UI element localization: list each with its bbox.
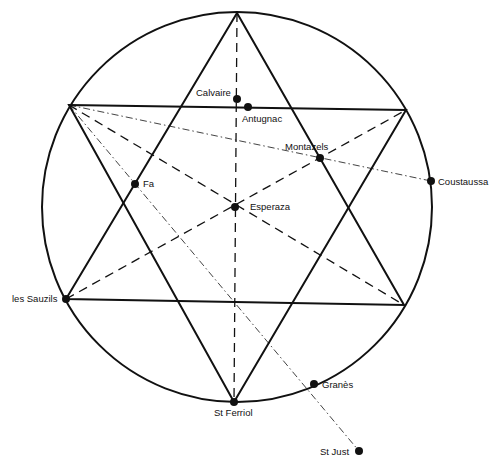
antugnac-label: Antugnac	[242, 113, 282, 124]
dash-dot-alignments	[69, 105, 431, 451]
montazels-label: Montazels	[285, 141, 329, 152]
granes-marker	[310, 380, 318, 388]
fa-marker	[131, 180, 139, 188]
antugnac-marker	[244, 103, 252, 111]
downward-triangle	[69, 105, 406, 402]
st-ferriol-marker	[230, 398, 238, 406]
st-ferriol-label: St Ferriol	[214, 407, 253, 418]
fa-label: Fa	[143, 178, 155, 189]
coustaussa-marker	[427, 177, 435, 185]
les-sauzils-label: les Sauzils	[12, 293, 58, 304]
calvaire-marker	[233, 95, 241, 103]
esperaza-marker	[231, 203, 239, 211]
montazels-marker	[316, 154, 324, 162]
esperaza-label: Esperaza	[250, 201, 291, 212]
granes-label: Granès	[322, 379, 353, 390]
calvaire-label: Calvaire	[196, 87, 231, 98]
st-just-label: St Just	[320, 446, 349, 457]
hexagram-diagram: CalvaireAntugnacMontazelsCoustaussaFaEsp…	[0, 0, 499, 464]
les-sauzils-marker	[62, 295, 70, 303]
st-just-marker	[355, 447, 363, 455]
coustaussa-label: Coustaussa	[438, 176, 489, 187]
